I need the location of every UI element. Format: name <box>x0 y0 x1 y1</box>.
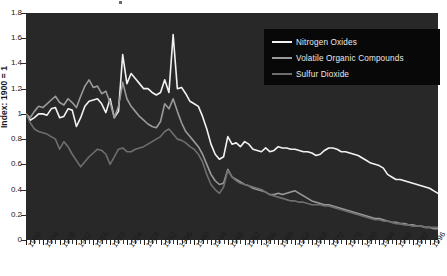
legend-label-volatile-organic-compounds: Volatile Organic Compounds <box>296 54 404 63</box>
series-line <box>26 114 438 228</box>
legend-item-sulfur-dioxide: Sulfur Dioxide <box>272 66 440 82</box>
chart-legend: Nitrogen Oxides Volatile Organic Compoun… <box>264 29 440 85</box>
legend-swatch-volatile-organic-compounds <box>272 57 292 59</box>
y-axis-label-container: Index: 1900 = 1 <box>0 0 16 276</box>
image-artifact <box>119 1 122 4</box>
legend-label-nitrogen-oxides: Nitrogen Oxides <box>296 38 357 47</box>
legend-swatch-nitrogen-oxides <box>272 41 292 43</box>
legend-swatch-sulfur-dioxide <box>272 73 292 75</box>
legend-item-nitrogen-oxides: Nitrogen Oxides <box>272 34 440 50</box>
legend-label-sulfur-dioxide: Sulfur Dioxide <box>296 70 349 79</box>
legend-item-volatile-organic-compounds: Volatile Organic Compounds <box>272 50 440 66</box>
x-axis-labels: 1900190419081912191619201924192819321936… <box>26 243 438 276</box>
y-axis-label: Index: 1900 = 1 <box>0 7 9 187</box>
